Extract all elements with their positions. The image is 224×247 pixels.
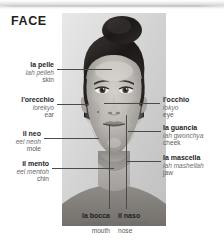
- label-mascella: la mascella lah mashellah jaw: [163, 154, 204, 177]
- leader-line-mascella: [126, 161, 161, 162]
- label-occhio-phonetic: lokyo: [163, 104, 189, 112]
- label-bocca: la bocca lah bokah mouth: [62, 212, 110, 235]
- label-naso: il naso eel nazoh nose: [118, 212, 147, 235]
- label-bocca-english: mouth: [62, 227, 110, 235]
- leader-line-orecchio: [57, 104, 88, 105]
- label-neo-phonetic: eel neoh: [0, 138, 41, 146]
- label-mento-phonetic: eel mentoh: [0, 168, 49, 176]
- label-guancia-italian: la guancia: [163, 124, 203, 132]
- face-vocabulary-page: FACE: [0, 0, 224, 247]
- label-guancia-english: cheek: [163, 139, 203, 147]
- label-pelle-english: skin: [0, 76, 54, 84]
- label-pelle-italian: la pelle: [0, 61, 54, 69]
- label-bocca-phonetic: lah bokah: [62, 220, 110, 228]
- label-occhio-italian: l'occhio: [163, 96, 189, 104]
- label-neo-english: mole: [0, 145, 41, 153]
- label-guancia: la guancia lah gwonchya cheek: [163, 124, 203, 147]
- label-occhio: l'occhio lokyo eye: [163, 96, 189, 119]
- label-occhio-english: eye: [163, 111, 189, 119]
- face-photograph: [62, 13, 166, 226]
- leader-line-guancia: [128, 131, 161, 132]
- label-orecchio: l'orecchio lorekyo ear: [0, 96, 54, 119]
- label-pelle-phonetic: lah pelleh: [0, 69, 54, 77]
- label-orecchio-phonetic: lorekyo: [0, 104, 54, 112]
- leader-line-bocca: [109, 124, 110, 209]
- label-guancia-phonetic: lah gwonchya: [163, 132, 203, 140]
- label-naso-italian: il naso: [118, 212, 147, 220]
- label-orecchio-english: ear: [0, 111, 54, 119]
- label-orecchio-italian: l'orecchio: [0, 96, 54, 104]
- label-naso-english: nose: [118, 227, 147, 235]
- label-bocca-italian: la bocca: [62, 212, 110, 220]
- label-mento: il mento eel mentoh chin: [0, 160, 49, 183]
- page-title: FACE: [11, 14, 47, 28]
- label-naso-phonetic: eel nazoh: [118, 220, 147, 228]
- label-mento-english: chin: [0, 175, 49, 183]
- label-mascella-phonetic: lah mashellah: [163, 162, 204, 170]
- leader-line-mento: [52, 168, 114, 169]
- label-mascella-english: jaw: [163, 169, 204, 177]
- leader-line-occhio: [104, 103, 160, 104]
- leader-line-naso: [126, 115, 127, 209]
- label-neo-italian: il neo: [0, 130, 41, 138]
- leader-line-neo: [44, 138, 99, 139]
- page-edge-scan-artifact: [0, 0, 224, 9]
- label-mascella-italian: la mascella: [163, 154, 204, 162]
- leader-line-pelle: [57, 69, 112, 70]
- label-mento-italian: il mento: [0, 160, 49, 168]
- label-neo: il neo eel neoh mole: [0, 130, 41, 153]
- label-pelle: la pelle lah pelleh skin: [0, 61, 54, 84]
